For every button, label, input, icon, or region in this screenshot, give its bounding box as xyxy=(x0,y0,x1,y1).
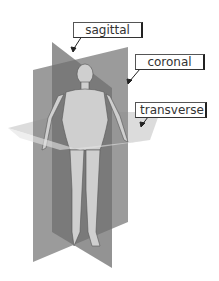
transverse-label: transverse xyxy=(135,102,207,118)
coronal-label: coronal xyxy=(135,54,205,70)
sagittal-label: sagittal xyxy=(73,22,143,38)
sagittal-arrowhead-icon xyxy=(71,47,76,52)
coronal-arrowhead-icon xyxy=(127,79,132,84)
anatomical-planes-diagram: sagittal coronal transverse xyxy=(0,0,219,281)
planes-illustration xyxy=(0,0,219,281)
